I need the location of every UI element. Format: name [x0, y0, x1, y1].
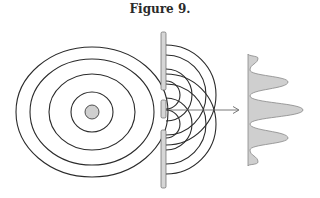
point-source [85, 105, 99, 119]
interference-pattern [248, 54, 303, 166]
figure-canvas: Figure 9. [0, 0, 320, 198]
diffracted-wave-arc [166, 84, 206, 164]
diffracted-wavefronts [166, 45, 216, 174]
diffracted-wave-arc [166, 69, 192, 121]
slit-barrier [161, 32, 166, 188]
barrier-segment [161, 130, 166, 188]
barrier-segment [161, 100, 166, 118]
diffracted-wave-arc [166, 55, 206, 135]
double-slit-diagram [0, 0, 320, 198]
barrier-segment [161, 32, 166, 90]
diffracted-wave-arc [166, 98, 192, 150]
direction-arrow [168, 107, 239, 114]
